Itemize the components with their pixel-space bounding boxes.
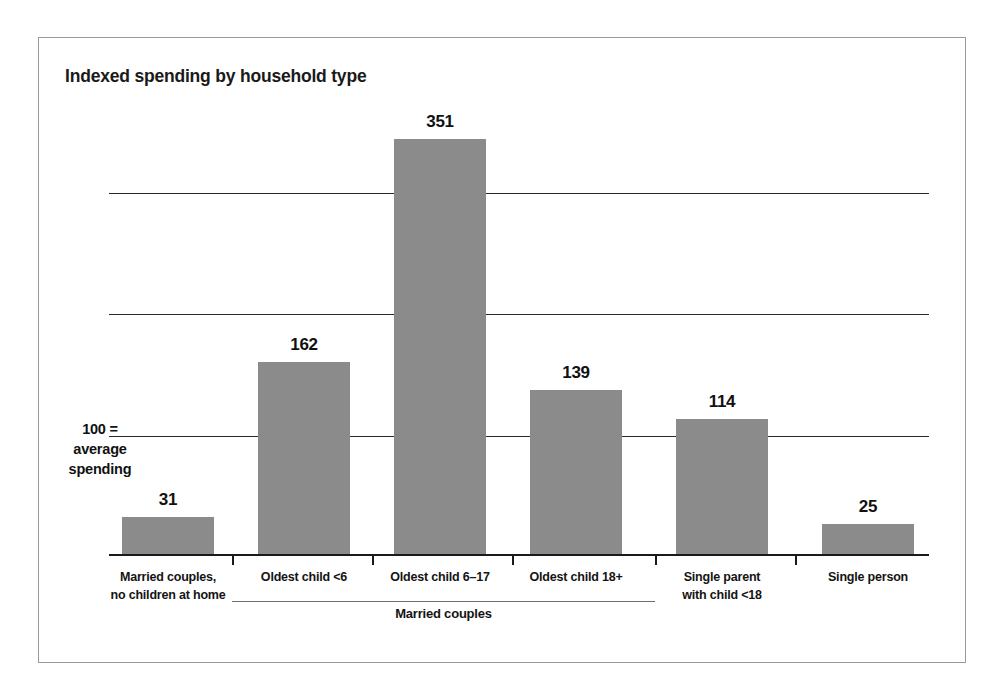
group-bracket-rule [232,601,655,602]
group-bracket-label: Married couples [232,606,655,621]
bar-value-married-no-children: 31 [122,490,214,510]
category-label-line-2: with child <18 [656,586,788,604]
category-label-line-1: Single parent [656,568,788,586]
category-label-single-parent: Single parent with child <18 [656,568,788,604]
category-label-line-2: no children at home [102,586,234,604]
category-label-line-1: Oldest child 6–17 [374,568,506,586]
category-label-line-1: Oldest child 18+ [510,568,642,586]
gridline-200 [109,314,929,315]
category-label-oldest-child-18-plus: Oldest child 18+ [510,568,642,586]
axis-tick-2 [372,554,374,565]
bar-oldest-child-6-17[interactable] [394,139,486,554]
bar-value-single-parent: 114 [676,392,768,412]
bar-single-person[interactable] [822,524,914,554]
category-label-oldest-child-6-17: Oldest child 6–17 [374,568,506,586]
bar-value-oldest-child-under-6: 162 [258,335,350,355]
bar-oldest-child-18-plus[interactable] [530,390,622,554]
bar-single-parent[interactable] [676,419,768,554]
category-label-line-1: Oldest child <6 [238,568,370,586]
axis-tick-3 [512,554,514,565]
axis-note-line-1: 100 = [57,419,143,439]
axis-tick-1 [232,554,234,565]
bar-value-oldest-child-18-plus: 139 [530,363,622,383]
plot-area: 100 = average spending 31 162 351 139 11… [39,38,967,664]
category-label-oldest-child-under-6: Oldest child <6 [238,568,370,586]
chart-frame: Indexed spending by household type 100 =… [38,37,966,663]
category-label-married-no-children: Married couples, no children at home [102,568,234,604]
bar-married-no-children[interactable] [122,517,214,554]
axis-note-line-3: spending [57,459,143,479]
axis-tick-5 [795,554,797,565]
category-label-line-1: Married couples, [102,568,234,586]
category-label-line-1: Single person [802,568,934,586]
bar-value-oldest-child-6-17: 351 [394,112,486,132]
axis-note-line-2: average [57,439,143,459]
axis-tick-4 [655,554,657,565]
gridline-100 [109,436,929,437]
category-label-single-person: Single person [802,568,934,586]
gridline-300 [109,193,929,194]
bar-oldest-child-under-6[interactable] [258,362,350,554]
axis-reference-note: 100 = average spending [57,419,143,479]
bar-value-single-person: 25 [822,497,914,517]
